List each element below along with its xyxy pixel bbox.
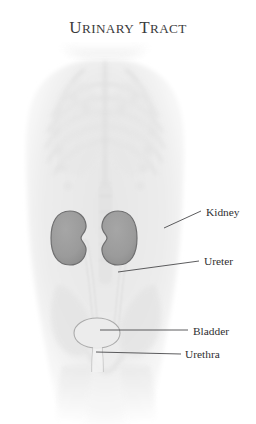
label-kidney: Kidney [206,207,240,218]
bladder [74,318,120,348]
urinary-tract-figure: URINARYTRACT [0,0,256,424]
label-bladder: Bladder [193,326,229,337]
urethra [92,347,103,372]
kidney-left [51,211,86,265]
label-ureter: Ureter [204,256,233,267]
kidney-right [102,211,137,265]
label-urethra: Urethra [185,349,220,360]
